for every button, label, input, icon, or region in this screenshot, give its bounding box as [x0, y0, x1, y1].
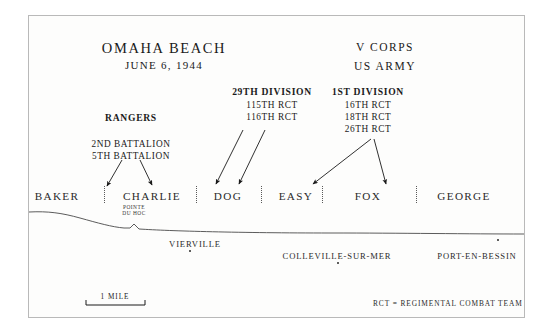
town-label-port-en-bessin: PORT-EN-BESSIN: [437, 252, 516, 262]
town-label-colleville-sur-mer: COLLEVILLE-SUR-MER: [283, 252, 392, 262]
page-title: OMAHA BEACH: [102, 40, 226, 56]
div1-element-2: 26TH RCT: [345, 124, 392, 134]
div1-element-1: 18TH RCT: [345, 112, 392, 122]
map-frame: [28, 15, 525, 318]
sector-divider-4: [322, 186, 323, 203]
sector-divider-1: [104, 186, 105, 203]
div1-heading: 1ST DIVISION: [332, 87, 404, 98]
town-dot-port-en-bessin: [497, 239, 499, 241]
rangers-heading: RANGERS: [105, 113, 157, 124]
div29-element-0: 115TH RCT: [246, 100, 297, 110]
pointe-du-hoc-line-2: DU HOC: [122, 210, 146, 216]
omaha-beach-map: OMAHA BEACH JUNE 6, 1944 V CORPS US ARMY…: [0, 0, 551, 336]
legend-note: RCT = REGIMENTAL COMBAT TEAM: [373, 300, 523, 308]
rangers-element-1: 5TH BATTALION: [92, 151, 170, 161]
rangers-element-0: 2ND BATTALION: [92, 139, 171, 149]
sector-divider-2: [196, 186, 197, 203]
div1-element-0: 16TH RCT: [345, 100, 392, 110]
pointe-du-hoc-label: POINTE DU HOC: [122, 204, 146, 216]
sector-divider-3: [261, 186, 262, 203]
scale-bar-label: 1 MILE: [101, 293, 130, 301]
corps-label: V CORPS: [356, 41, 414, 54]
sector-label-baker: BAKER: [35, 190, 80, 203]
sector-label-george: GEORGE: [437, 190, 490, 203]
town-dot-colleville-sur-mer: [337, 262, 339, 264]
sector-label-fox: FOX: [355, 190, 381, 203]
div29-element-1: 116TH RCT: [246, 112, 297, 122]
div29-heading: 29TH DIVISION: [232, 87, 312, 98]
sector-label-dog: DOG: [214, 190, 242, 203]
map-date: JUNE 6, 1944: [125, 59, 203, 71]
army-label: US ARMY: [354, 60, 416, 73]
sector-divider-5: [416, 186, 417, 203]
sector-label-charlie: CHARLIE: [123, 190, 181, 203]
town-dot-vierville: [189, 250, 191, 252]
town-label-vierville: VIERVILLE: [169, 240, 221, 250]
sector-label-easy: EASY: [279, 190, 314, 203]
